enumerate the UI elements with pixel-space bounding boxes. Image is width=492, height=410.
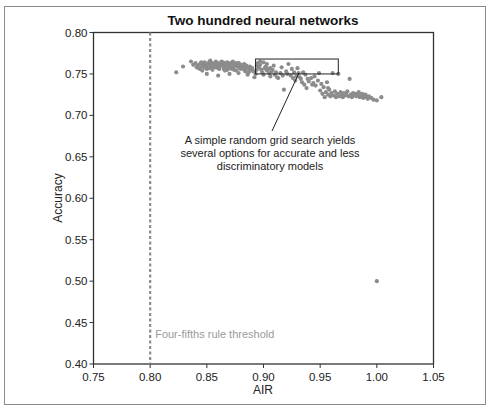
- data-point: [227, 66, 231, 70]
- y-tick-label: 0.75: [65, 68, 87, 80]
- data-point: [379, 95, 383, 99]
- data-point: [202, 65, 206, 69]
- data-point: [268, 74, 272, 78]
- y-axis: 0.400.450.500.550.600.650.700.750.80: [65, 27, 93, 371]
- annotation-line-1: A simple random grid search yields: [185, 134, 356, 146]
- annotation-line-3: discriminatory models: [217, 160, 324, 172]
- x-tick-label: 0.90: [252, 371, 274, 383]
- annotation-pointer: [272, 73, 299, 131]
- data-point: [205, 72, 209, 76]
- x-tick-label: 0.80: [139, 371, 161, 383]
- x-tick-label: 0.85: [196, 371, 218, 383]
- data-point: [207, 66, 211, 70]
- data-point: [217, 67, 221, 71]
- data-point: [214, 61, 218, 65]
- chart-title: Two hundred neural networks: [167, 13, 358, 28]
- data-point: [181, 64, 185, 68]
- data-point: [272, 64, 276, 68]
- data-point: [306, 77, 310, 81]
- data-point: [261, 73, 265, 77]
- data-point: [208, 59, 212, 63]
- y-axis-label: Accuracy: [51, 173, 65, 222]
- data-point: [304, 86, 308, 90]
- y-tick-label: 0.80: [65, 27, 87, 39]
- y-tick-label: 0.70: [65, 109, 87, 121]
- data-point: [247, 70, 251, 74]
- data-point: [325, 80, 329, 84]
- y-tick-label: 0.55: [65, 234, 87, 246]
- x-axis-label: AIR: [253, 383, 273, 397]
- x-tick-label: 0.75: [82, 371, 104, 383]
- data-point: [231, 59, 235, 63]
- y-tick-label: 0.40: [65, 358, 87, 370]
- data-point: [236, 71, 240, 75]
- data-point: [223, 69, 227, 73]
- data-point: [198, 67, 202, 71]
- data-point: [331, 71, 335, 75]
- scatter-chart: Two hundred neural networks 0.400.450.50…: [0, 0, 492, 410]
- y-tick-label: 0.65: [65, 151, 87, 163]
- data-point: [295, 66, 299, 70]
- x-tick-label: 0.95: [309, 371, 331, 383]
- data-point: [236, 61, 240, 65]
- data-point: [321, 85, 325, 89]
- y-tick-label: 0.50: [65, 275, 87, 287]
- x-tick-label: 1.00: [366, 371, 388, 383]
- x-tick-label: 1.05: [422, 371, 444, 383]
- data-point: [312, 74, 316, 78]
- data-point: [265, 62, 269, 66]
- data-point: [310, 83, 314, 87]
- data-point: [242, 62, 246, 66]
- threshold-label: Four-fifths rule threshold: [155, 328, 274, 340]
- data-point: [323, 95, 327, 99]
- data-point: [316, 78, 320, 82]
- data-point: [348, 77, 352, 81]
- data-point: [242, 68, 246, 72]
- data-point: [345, 89, 349, 93]
- data-point: [219, 59, 223, 63]
- data-point: [326, 86, 330, 90]
- data-point: [227, 72, 231, 76]
- data-point: [375, 279, 379, 283]
- data-point: [216, 73, 220, 77]
- data-point: [375, 98, 379, 102]
- y-tick-label: 0.45: [65, 317, 87, 329]
- data-point: [276, 76, 280, 80]
- data-point: [282, 88, 286, 92]
- data-point: [280, 65, 284, 69]
- data-point: [303, 73, 307, 77]
- data-point: [174, 70, 178, 74]
- data-point: [232, 68, 236, 72]
- data-point: [286, 62, 290, 66]
- x-axis: 0.750.800.850.900.951.001.05: [82, 364, 444, 383]
- data-point: [270, 68, 274, 72]
- plot-area: [94, 33, 434, 365]
- data-point: [202, 60, 206, 64]
- data-point: [212, 65, 216, 69]
- annotation-line-2: several options for accurate and less: [180, 147, 360, 159]
- data-point: [225, 60, 229, 64]
- data-point: [258, 59, 262, 63]
- data-point: [317, 71, 321, 75]
- data-point: [290, 67, 294, 71]
- y-tick-label: 0.60: [65, 192, 87, 204]
- data-point: [238, 66, 242, 70]
